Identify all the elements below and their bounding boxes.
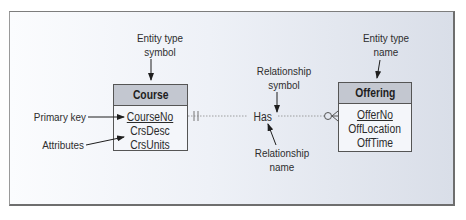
attribute: CrsUnits bbox=[114, 138, 187, 152]
relationship-name[interactable]: Has bbox=[253, 110, 271, 124]
entity-attributes: CourseNo CrsDesc CrsUnits bbox=[114, 106, 187, 152]
callout-line: name bbox=[358, 45, 413, 59]
callout-line: symbol bbox=[132, 45, 187, 59]
attribute: OffTime bbox=[339, 136, 411, 150]
callout-entity-type-name: Entity type name bbox=[358, 31, 413, 59]
entity-name: Course bbox=[133, 85, 169, 105]
attribute-primary-key: CourseNo bbox=[114, 110, 187, 124]
callout-relationship-name: Relationship name bbox=[250, 146, 314, 174]
entity-offering[interactable]: Offering OfferNo OffLocation OffTime bbox=[338, 82, 412, 152]
callout-line: Entity type bbox=[132, 31, 187, 45]
callout-line: Relationship bbox=[252, 64, 316, 78]
callout-line: Relationship bbox=[250, 146, 314, 160]
entity-name: Offering bbox=[355, 83, 395, 103]
entity-attributes: OfferNo OffLocation OffTime bbox=[339, 104, 411, 150]
attribute: OffLocation bbox=[339, 122, 411, 136]
callout-relationship-symbol: Relationship symbol bbox=[252, 64, 316, 92]
callout-primary-key: Primary key bbox=[19, 110, 86, 124]
entity-header: Offering bbox=[339, 83, 411, 104]
callout-attributes: Attributes bbox=[26, 138, 84, 152]
attribute-primary-key: OfferNo bbox=[339, 108, 411, 122]
entity-header: Course bbox=[114, 85, 187, 106]
attribute: CrsDesc bbox=[114, 124, 187, 138]
callout-line: name bbox=[250, 160, 314, 174]
callout-line: Entity type bbox=[358, 31, 413, 45]
entity-course[interactable]: Course CourseNo CrsDesc CrsUnits bbox=[113, 84, 188, 151]
callout-entity-type-symbol: Entity type symbol bbox=[132, 31, 187, 59]
callout-line: symbol bbox=[252, 78, 316, 92]
